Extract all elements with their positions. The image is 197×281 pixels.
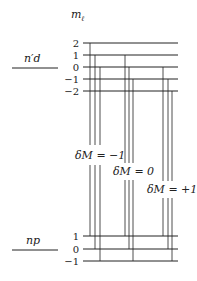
lower-level-label: 0 (73, 244, 79, 255)
transition-group-label: δM = −1 (75, 149, 125, 162)
axis-label-m-l: mℓ (71, 8, 84, 23)
upper-level-label: −2 (64, 86, 79, 97)
lower-level-label: −1 (64, 256, 79, 267)
lower-state-label: np (26, 234, 40, 247)
transition-group-label: δM = 0 (113, 165, 154, 178)
upper-level-label: 0 (73, 62, 79, 73)
upper-level-label: 2 (73, 38, 79, 49)
upper-level-label: −1 (64, 74, 79, 85)
upper-level-label: 1 (73, 50, 79, 61)
lower-level-label: 1 (73, 231, 79, 242)
transition-group-label: δM = +1 (147, 183, 197, 196)
upper-state-label: n′d (24, 52, 41, 65)
